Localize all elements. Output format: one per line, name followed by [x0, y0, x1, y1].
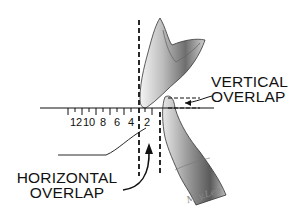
- horizontal-overlap-arrow: [123, 150, 149, 190]
- ruler-tick-label: 12: [70, 116, 82, 128]
- ruler-tick-label: 8: [100, 116, 106, 128]
- upper-incisor: [140, 18, 205, 108]
- ruler-tick-label: 4: [128, 116, 134, 128]
- vertical-overlap-label: VERTICAL OVERLAP: [211, 74, 288, 104]
- vertical-overlap-line2: OVERLAP: [211, 89, 288, 104]
- ruler-tick-label: 6: [114, 116, 120, 128]
- horizontal-overlap-line2: OVERLAP: [12, 185, 122, 200]
- horizontal-overlap-leader: [58, 128, 146, 155]
- horizontal-overlap-line1: HORIZONTAL: [12, 170, 122, 185]
- ruler-tick-label: 10: [83, 116, 95, 128]
- vertical-overlap-line1: VERTICAL: [211, 74, 288, 89]
- horizontal-overlap-label: HORIZONTAL OVERLAP: [12, 170, 122, 200]
- ruler-tick-label: 2: [144, 116, 150, 128]
